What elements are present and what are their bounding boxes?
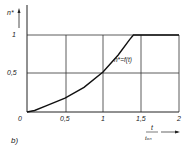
x-label-denominator: tₒₙ: [145, 135, 152, 141]
grid: [27, 35, 179, 112]
x-tick-1.5: 1,5: [136, 115, 146, 122]
x-tick-1: 1: [101, 115, 105, 122]
panel-label: b): [11, 136, 18, 145]
x-label-numerator: t: [151, 124, 154, 131]
chart: 1 0,5 0 0,5 1 1,5 2 n* n*=f(t) t tₒₙ b): [0, 0, 189, 148]
x-tick-2: 2: [176, 115, 181, 122]
curve-annotation: n*=f(t): [114, 56, 132, 64]
x-tick-0.5: 0,5: [60, 115, 70, 122]
y-tick-1: 1: [12, 31, 16, 38]
x-axis-arrow-icon: [161, 131, 180, 134]
y-tick-0.5: 0,5: [7, 69, 17, 76]
x-tick-0: 0: [18, 115, 22, 122]
y-axis-arrow-icon: [18, 8, 21, 28]
y-axis-label: n*: [7, 9, 14, 16]
